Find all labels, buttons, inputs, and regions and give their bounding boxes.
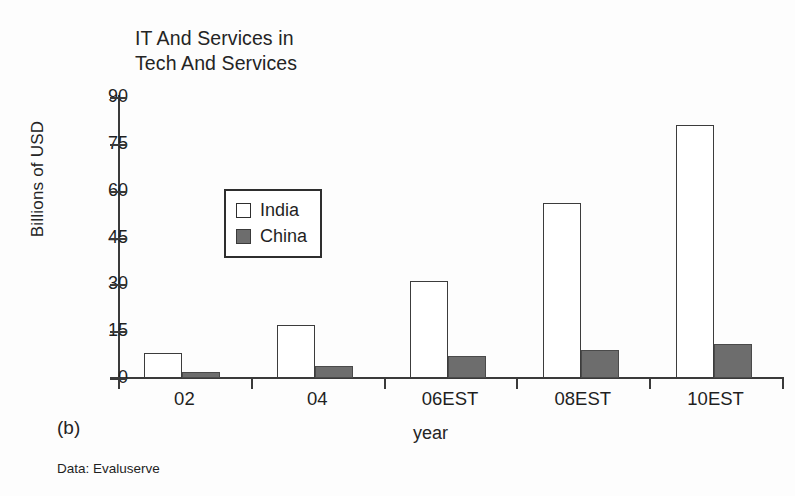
x-axis-tick-mark: [649, 377, 651, 389]
bar-china-02: [182, 372, 220, 378]
bar-india-08est: [543, 203, 581, 378]
legend-label-china: China: [260, 226, 307, 247]
x-axis-title: year: [0, 423, 795, 444]
bar-column: [182, 0, 220, 378]
bar-column: [144, 0, 182, 378]
panel-label: (b): [57, 417, 80, 439]
x-axis-tick-label: 02: [174, 388, 195, 410]
x-axis-tick-mark: [118, 377, 120, 389]
x-axis-tick-mark: [251, 377, 253, 389]
y-axis-tick: 0: [0, 378, 128, 380]
chart-legend: India China: [224, 189, 322, 258]
bar-china-04: [315, 366, 353, 378]
x-axis-tick-label: 04: [307, 388, 328, 410]
bar-india-02: [144, 353, 182, 378]
bar-column: [676, 0, 714, 378]
x-axis-title-text: year: [413, 423, 448, 443]
legend-swatch-china-icon: [236, 229, 251, 244]
bar-india-04: [277, 325, 315, 378]
bar-chart-figure: IT And Services in Tech And Services Bil…: [0, 0, 795, 496]
bar-india-06est: [410, 281, 448, 378]
x-axis-tick-mark: [782, 377, 784, 389]
legend-label-india: India: [260, 200, 299, 221]
bar-china-08est: [581, 350, 619, 378]
x-axis-tick-mark: [516, 377, 518, 389]
bar-china-10est: [714, 344, 752, 378]
legend-item-india: India: [236, 197, 307, 223]
bar-column: [581, 0, 619, 378]
x-axis-tick-label: 10EST: [687, 388, 744, 410]
bar-column: [543, 0, 581, 378]
bar-column: [714, 0, 752, 378]
x-axis-tick-label: 08EST: [555, 388, 612, 410]
bar-india-10est: [676, 125, 714, 378]
source-note: Data: Evaluserve: [57, 461, 160, 476]
x-axis-tick-label: 06EST: [422, 388, 479, 410]
legend-item-china: China: [236, 223, 307, 249]
bar-column: [410, 0, 448, 378]
bar-column: [448, 0, 486, 378]
plot-area: [0, 0, 795, 378]
x-axis-tick-mark: [384, 377, 386, 389]
bar-china-06est: [448, 356, 486, 378]
legend-swatch-india-icon: [236, 203, 251, 218]
